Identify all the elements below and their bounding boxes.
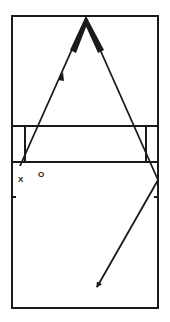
player-o-label: O bbox=[38, 171, 44, 179]
player-x-label: X bbox=[18, 176, 23, 184]
right-return-arrow bbox=[86, 18, 158, 180]
court-diagram bbox=[0, 0, 170, 322]
bounce-arrow bbox=[97, 180, 158, 287]
